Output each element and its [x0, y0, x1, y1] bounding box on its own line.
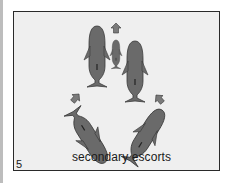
arrow-up-icon	[111, 23, 121, 33]
arrow-up-right-icon	[69, 91, 83, 105]
caption-label: secondary escorts	[72, 150, 171, 164]
bleed-through-text	[185, 23, 187, 33]
calf-whale	[110, 40, 122, 69]
adult-whale-left	[84, 26, 110, 87]
arrow-up-left-icon	[152, 92, 166, 106]
adult-whale-right	[122, 41, 148, 102]
panel-number: 5	[16, 158, 22, 170]
